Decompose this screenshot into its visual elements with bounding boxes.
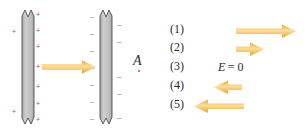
- option-label-4: (4): [170, 78, 184, 93]
- answer-options-list: (1) (2): [170, 22, 307, 126]
- arrow-right-long-icon: [236, 22, 298, 40]
- option-row-2[interactable]: (2): [170, 40, 307, 58]
- option-row-1[interactable]: (1): [170, 22, 307, 40]
- option-label-5: (5): [170, 97, 184, 112]
- figure-canvas: + + + + + + + + +: [0, 0, 307, 134]
- e-equals-zero-text: E = 0: [218, 60, 244, 75]
- plus-sign: +: [12, 108, 16, 115]
- field-arrow-icon: [42, 59, 98, 75]
- plus-sign: +: [36, 100, 40, 107]
- minus-sign: –: [117, 21, 121, 28]
- minus-sign: –: [90, 81, 94, 88]
- option-row-3[interactable]: (3) E = 0: [170, 59, 307, 77]
- option-label-2: (2): [170, 40, 184, 55]
- e-value: = 0: [228, 60, 244, 74]
- minus-sign: –: [90, 47, 94, 54]
- positive-plate-shape: [18, 6, 44, 128]
- minus-sign: –: [117, 38, 121, 45]
- option-row-5[interactable]: (5): [170, 97, 307, 115]
- minus-sign: –: [90, 30, 94, 37]
- minus-sign: –: [90, 98, 94, 105]
- option-row-4[interactable]: (4): [170, 78, 307, 96]
- plus-sign: +: [36, 43, 40, 50]
- minus-sign: –: [117, 114, 121, 121]
- point-a-marker: [138, 70, 140, 72]
- plus-sign: +: [36, 11, 40, 18]
- minus-sign: –: [117, 90, 121, 97]
- arrow-left-short-icon: [214, 78, 248, 96]
- plus-sign: +: [12, 28, 16, 35]
- positive-plate: [18, 6, 44, 128]
- arrow-right-short-icon: [236, 40, 270, 58]
- plus-sign: +: [36, 83, 40, 90]
- parallel-plates-diagram: + + + + + + + + +: [0, 0, 165, 134]
- minus-sign: –: [90, 13, 94, 20]
- plus-sign: +: [36, 27, 40, 34]
- plus-sign: +: [36, 63, 40, 70]
- minus-sign: –: [117, 73, 121, 80]
- point-a-label: A: [133, 53, 142, 69]
- plus-sign: +: [36, 116, 40, 123]
- minus-sign: –: [90, 115, 94, 122]
- option-label-3: (3): [170, 59, 184, 74]
- arrow-left-long-icon: [194, 97, 248, 115]
- option-label-1: (1): [170, 22, 184, 37]
